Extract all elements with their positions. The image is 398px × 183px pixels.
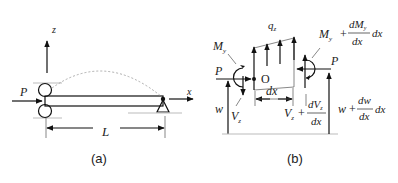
left-p-label: P	[214, 64, 223, 78]
svg-text:+: +	[298, 106, 305, 120]
svg-text:My: My	[318, 27, 333, 43]
left-shear-label: Vz	[231, 109, 241, 125]
svg-text:w: w	[338, 102, 346, 116]
x-axis-label: x	[186, 86, 192, 97]
right-p-label: P	[330, 54, 339, 68]
figure-b: qz O P My Vz w dx P	[212, 18, 386, 166]
svg-text:dx: dx	[375, 103, 386, 115]
length-label: L	[101, 124, 109, 139]
svg-text:dx: dx	[359, 110, 370, 122]
caption-b: (b)	[287, 151, 303, 166]
left-deflection-label: w	[215, 102, 223, 116]
qz-label: qz	[268, 19, 277, 33]
origin-point	[252, 77, 256, 81]
right-moment-label: My + dMy dx dx	[318, 18, 383, 47]
svg-text:+: +	[340, 27, 347, 41]
buckled-shape-dashed	[52, 71, 162, 97]
svg-text:dVz: dVz	[308, 98, 323, 111]
svg-text:Vz: Vz	[284, 106, 294, 122]
right-moment-leader	[312, 48, 320, 58]
svg-text:+: +	[349, 102, 356, 116]
left-moment-leader	[228, 54, 236, 64]
roller-top	[39, 84, 52, 97]
dx-label: dx	[266, 84, 278, 98]
right-deflection-label: w + dw dx dx	[338, 94, 386, 122]
svg-text:dx: dx	[311, 115, 322, 127]
left-shear-leader	[236, 98, 241, 106]
right-shear-label: Vz + dVz dx	[284, 98, 326, 127]
beam	[45, 96, 163, 106]
figure-a: z P x L (a)	[12, 24, 193, 166]
svg-text:dMy: dMy	[349, 18, 367, 31]
svg-text:dx: dx	[352, 35, 363, 47]
element-outline	[254, 38, 294, 90]
left-moment-label: My	[212, 39, 227, 55]
svg-text:dw: dw	[358, 94, 372, 106]
svg-text:dx: dx	[372, 27, 383, 39]
beam-column-diagram: z P x L (a)	[0, 0, 398, 183]
z-axis-label: z	[51, 24, 56, 35]
caption-a: (a)	[91, 151, 107, 166]
left-moment-arc	[234, 68, 244, 87]
load-p-label: P	[19, 85, 28, 99]
